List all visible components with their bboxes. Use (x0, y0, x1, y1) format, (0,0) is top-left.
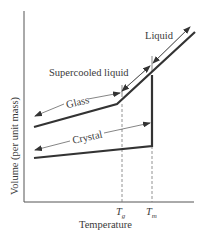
tm-tick-label: Tm (146, 206, 157, 220)
liquid-label: Liquid (145, 30, 174, 41)
glass-arrow-left (35, 104, 64, 116)
x-axis-label: Temperature (79, 219, 132, 230)
supercooled-label: Supercooled liquid (49, 67, 129, 78)
y-axis-label: Volume (per unit mass) (9, 96, 21, 195)
crystal-arrow-right (104, 123, 150, 133)
crystal-label: Crystal (71, 129, 103, 146)
glass-arrow-right (88, 93, 120, 99)
glass-label: Glass (65, 94, 90, 110)
volume-temperature-diagram: Liquid Supercooled liquid Glass Crystal … (0, 0, 204, 242)
crystal-arrow-left (35, 141, 70, 150)
tg-tick-label: Tg (116, 206, 126, 220)
glass-liquid-curve (34, 32, 195, 127)
